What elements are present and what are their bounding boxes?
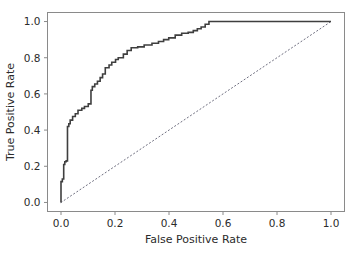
- y-tick-label: 1.0: [24, 15, 41, 27]
- y-tick-label: 0.8: [24, 52, 41, 64]
- y-tick-label: 0.4: [24, 124, 41, 136]
- x-tick-label: 0.8: [269, 217, 286, 229]
- y-axis-label: True Positive Rate: [4, 63, 17, 162]
- y-tick-label: 0.2: [24, 160, 41, 172]
- y-tick-label: 0.6: [24, 88, 41, 100]
- figure-background: [0, 0, 360, 253]
- x-tick-label: 0.6: [215, 217, 232, 229]
- x-tick-label: 0.2: [107, 217, 124, 229]
- roc-curve-figure: 0.00.20.40.60.81.0 0.00.20.40.60.81.0 Fa…: [0, 0, 360, 253]
- plot-canvas: 0.00.20.40.60.81.0 0.00.20.40.60.81.0 Fa…: [0, 0, 360, 253]
- x-axis-label: False Positive Rate: [145, 233, 247, 246]
- x-tick-label: 0.0: [53, 217, 70, 229]
- x-tick-label: 1.0: [323, 217, 340, 229]
- x-tick-label: 0.4: [161, 217, 178, 229]
- y-tick-label: 0.0: [24, 196, 41, 208]
